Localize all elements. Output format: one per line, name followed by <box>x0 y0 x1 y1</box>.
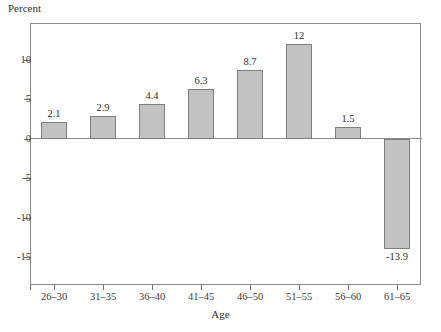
y-axis-tick-label: -15 <box>7 251 31 262</box>
y-axis-tick-label-wrap: -5 <box>0 178 31 179</box>
y-axis-tick-label: -5 <box>7 172 31 183</box>
bar <box>335 127 361 139</box>
y-axis-tick-label: 5 <box>7 93 31 104</box>
y-axis-tick-label-wrap: 10 <box>0 60 31 61</box>
bar <box>188 89 214 139</box>
y-axis-tick-label-wrap: 5 <box>0 99 31 100</box>
bar-value-label: 6.3 <box>171 75 231 87</box>
bar <box>90 116 116 139</box>
bar <box>139 104 165 139</box>
zero-baseline <box>30 138 422 139</box>
bar <box>384 139 410 249</box>
x-axis-title: Age <box>0 308 441 321</box>
bar <box>41 122 67 139</box>
y-axis-tick-label-wrap: -10 <box>0 218 31 219</box>
bar-value-label: 8.7 <box>220 56 280 68</box>
bar-value-label: 12 <box>269 30 329 42</box>
x-axis-origin-tick <box>30 285 31 290</box>
bar-value-label: 4.4 <box>122 90 182 102</box>
bar-value-label: 2.9 <box>73 102 133 114</box>
bar <box>286 44 312 139</box>
y-axis-tick-label-wrap: -15 <box>0 257 31 258</box>
y-axis-tick-label: 10 <box>7 54 31 65</box>
bar <box>237 70 263 139</box>
bar-value-label: 1.5 <box>318 113 378 125</box>
y-axis-tick-label: -10 <box>7 212 31 223</box>
x-axis-tick-label: 61–65 <box>367 290 427 303</box>
y-axis-tick-label: 0 <box>7 133 31 144</box>
bar-value-label: -13.9 <box>367 251 427 263</box>
y-axis-title: Percent <box>8 2 41 15</box>
bar-chart: Percent 1050-5-10-15 26–3031–3536–4041–4… <box>0 0 441 332</box>
y-axis-tick-label-wrap: 0 <box>0 139 31 140</box>
